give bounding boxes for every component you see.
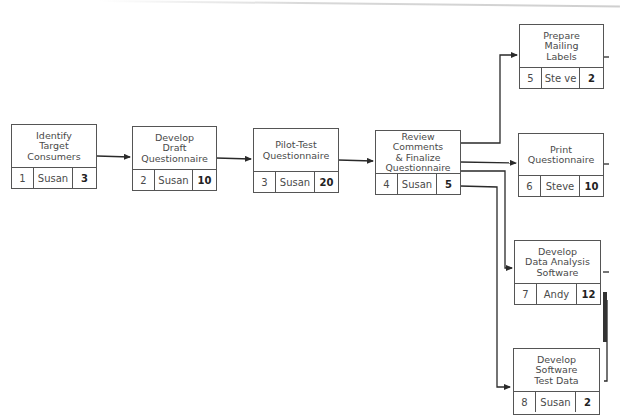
arrow-4-to-7 <box>460 171 512 268</box>
task-title: Pilot-Test Questionnaire <box>254 129 338 172</box>
task-id: 7 <box>515 284 537 304</box>
task-info-row: 1 Susan 3 <box>12 167 96 188</box>
arrow-1-to-2 <box>97 156 130 157</box>
arrow-4-to-6 <box>460 162 516 163</box>
task-node-3[interactable]: Pilot-Test Questionnaire 3 Susan 20 <box>253 128 339 193</box>
task-id: 3 <box>254 172 276 192</box>
task-owner: Susan <box>155 170 193 190</box>
scan-artifact <box>603 292 607 342</box>
task-title: Develop Data Analysis Software <box>515 241 600 284</box>
task-info-row: 7 Andy 12 <box>515 283 600 304</box>
task-title: Develop Software Test Data <box>514 349 599 392</box>
task-id: 4 <box>376 174 398 194</box>
task-id: 2 <box>133 170 155 190</box>
arrow-3-to-4 <box>338 160 373 161</box>
task-id: 8 <box>514 392 536 412</box>
task-duration: 10 <box>580 176 603 196</box>
task-node-7[interactable]: Develop Data Analysis Software 7 Andy 12 <box>514 240 601 305</box>
task-duration: 2 <box>580 68 603 88</box>
task-owner: Susan <box>536 392 576 412</box>
task-duration: 20 <box>315 172 338 192</box>
task-owner: Ste ve <box>542 68 580 88</box>
task-duration: 5 <box>437 174 460 194</box>
task-info-row: 2 Susan 10 <box>133 169 216 190</box>
task-id: 5 <box>520 68 542 88</box>
task-info-row: 8 Susan 2 <box>514 391 599 412</box>
task-info-row: 6 Steve 10 <box>519 175 603 196</box>
task-info-row: 5 Ste ve 2 <box>520 67 603 88</box>
arrow-2-to-3 <box>216 158 251 159</box>
task-node-4[interactable]: Review Comments & Finalize Questionnaire… <box>375 130 461 195</box>
task-duration: 12 <box>577 284 600 304</box>
task-duration: 2 <box>576 392 599 412</box>
task-owner: Susan <box>398 174 437 194</box>
task-title: Identify Target Consumers <box>12 125 96 168</box>
task-node-8[interactable]: Develop Software Test Data 8 Susan 2 <box>513 348 600 415</box>
task-node-2[interactable]: Develop Draft Questionnaire 2 Susan 10 <box>132 126 217 191</box>
task-info-row: 4 Susan 5 <box>376 173 460 194</box>
task-id: 1 <box>12 168 34 188</box>
task-id: 6 <box>519 176 541 196</box>
arrow-4-to-8 <box>460 186 510 387</box>
task-node-6[interactable]: Print Questionnaire 6 Steve 10 <box>518 133 604 197</box>
task-owner: Susan <box>276 172 315 192</box>
task-owner: Andy <box>537 284 577 304</box>
task-title: Print Questionnaire <box>519 134 603 176</box>
task-title: Prepare Mailing Labels <box>520 25 603 68</box>
task-node-5[interactable]: Prepare Mailing Labels 5 Ste ve 2 <box>519 24 604 89</box>
task-info-row: 3 Susan 20 <box>254 171 338 192</box>
task-duration: 3 <box>73 168 96 188</box>
task-title: Review Comments & Finalize Questionnaire <box>376 131 460 174</box>
arrow-4-to-5 <box>460 55 517 143</box>
task-duration: 10 <box>193 170 216 190</box>
task-owner: Steve <box>541 176 580 196</box>
task-title: Develop Draft Questionnaire <box>133 127 216 170</box>
task-node-1[interactable]: Identify Target Consumers 1 Susan 3 <box>11 124 97 189</box>
task-owner: Susan <box>34 168 73 188</box>
